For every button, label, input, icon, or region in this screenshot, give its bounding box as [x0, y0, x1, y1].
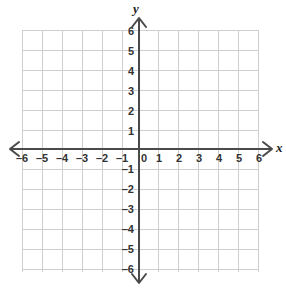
x-tick-label--6: –6: [12, 153, 32, 164]
y-axis: [132, 18, 146, 283]
y-tick-label-1: 1: [114, 126, 134, 137]
y-tick-label-3: 3: [114, 86, 134, 97]
x-tick-label-2: 2: [169, 153, 189, 164]
y-tick-label--1: –1: [114, 164, 134, 175]
y-tick-label--4: –4: [114, 224, 134, 235]
x-tick-label--3: –3: [72, 153, 92, 164]
y-tick-label--2: –2: [114, 184, 134, 195]
y-tick-label--3: –3: [114, 204, 134, 215]
x-tick-label--4: –4: [52, 153, 72, 164]
y-tick-label--6: –6: [114, 264, 134, 275]
x-tick-label-3: 3: [189, 153, 209, 164]
coordinate-grid-svg: [0, 0, 286, 289]
y-tick-label-4: 4: [114, 66, 134, 77]
y-tick-label-6: 6: [114, 26, 134, 37]
y-tick-label-5: 5: [114, 46, 134, 57]
x-tick-label--2: –2: [92, 153, 112, 164]
x-tick-label-6: 6: [249, 153, 269, 164]
grid-lines-vertical: [23, 30, 259, 272]
x-tick-label-4: 4: [209, 153, 229, 164]
x-tick-label--5: –5: [32, 153, 52, 164]
coordinate-plane-figure: –6 –5 –4 –3 –2 –1 0 1 2 3 4 5 6 6 5 4 3 …: [0, 0, 286, 289]
y-tick-label--5: –5: [114, 244, 134, 255]
y-axis-name: y: [133, 2, 139, 15]
x-tick-label-5: 5: [229, 153, 249, 164]
x-axis-name: x: [276, 141, 283, 154]
y-tick-label-2: 2: [114, 106, 134, 117]
x-tick-label-1: 1: [149, 153, 169, 164]
